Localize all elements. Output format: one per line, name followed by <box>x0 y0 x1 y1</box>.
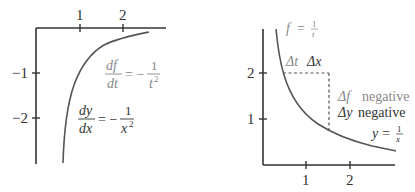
left-graph: 1 2 −1 −2 df dt = − 1 t 2 dy dx = − 1 x … <box>12 7 166 164</box>
dx-denominator: dx <box>79 121 93 136</box>
label-y-equals-1-over-x: y = 1 x <box>370 124 403 144</box>
y-lhs: y <box>370 126 379 141</box>
delta-f-symbol: Δf <box>337 89 352 104</box>
f-den: t <box>312 29 315 39</box>
df-eq-sign: = − <box>125 67 144 82</box>
dy-eq-sign: = − <box>98 112 117 127</box>
left-x-tick-label-2: 2 <box>119 7 127 23</box>
dy-rhs-exp: 2 <box>129 119 134 129</box>
right-x-tick-label-1: 1 <box>302 172 310 188</box>
f-num: 1 <box>312 19 317 29</box>
label-delta-y-negative: Δy negative <box>337 105 405 120</box>
left-x-tick-label-1: 1 <box>76 7 84 23</box>
df-numerator: df <box>106 58 119 73</box>
df-rhs-num: 1 <box>151 58 158 73</box>
dy-numerator: dy <box>79 103 93 118</box>
left-y-tick-label-1: −1 <box>12 65 28 81</box>
dy-rhs-num: 1 <box>125 103 132 118</box>
left-y-tick-label-2: −2 <box>12 110 28 126</box>
label-delta-f-negative: Δf negative <box>337 89 409 104</box>
label-dy-dx: dy dx = − 1 x 2 <box>78 103 134 136</box>
f-lhs: f <box>286 21 292 36</box>
f-eq: = <box>297 21 305 36</box>
delta-t-label: Δt <box>285 54 299 69</box>
delta-x-label: Δx <box>306 54 322 69</box>
df-rhs-exp: 2 <box>154 74 159 84</box>
right-y-tick-label-2: 2 <box>247 65 255 81</box>
delta-y-symbol: Δy <box>337 105 353 120</box>
left-derivative-curve <box>63 32 149 163</box>
y-eq: = <box>382 126 390 141</box>
dy-rhs-den: x <box>120 121 128 136</box>
right-x-tick-label-2: 2 <box>346 172 354 188</box>
y-num: 1 <box>397 124 402 134</box>
y-den: x <box>395 134 400 144</box>
delta-f-text: negative <box>362 89 409 104</box>
label-f-equals-1-over-t: f = 1 t <box>286 19 318 39</box>
right-graph: 1 2 2 1 f = 1 t Δt Δx Δf negative Δy neg… <box>247 19 409 188</box>
diagram-canvas: 1 2 −1 −2 df dt = − 1 t 2 dy dx = − 1 x … <box>0 0 415 192</box>
delta-y-text: negative <box>358 105 405 120</box>
right-y-tick-label-1: 1 <box>247 111 255 127</box>
label-df-dt: df dt = − 1 t 2 <box>105 58 160 91</box>
dt-denominator: dt <box>107 76 119 91</box>
